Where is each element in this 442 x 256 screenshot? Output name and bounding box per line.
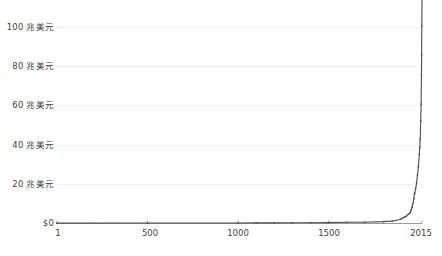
plot-area xyxy=(0,0,442,256)
chart-container: 100 兆美元 80 兆美元 60 兆美元 40 兆美元 20 兆美元 $0 1… xyxy=(0,0,442,256)
data-series-markers xyxy=(56,0,423,224)
data-series-line xyxy=(57,0,422,223)
